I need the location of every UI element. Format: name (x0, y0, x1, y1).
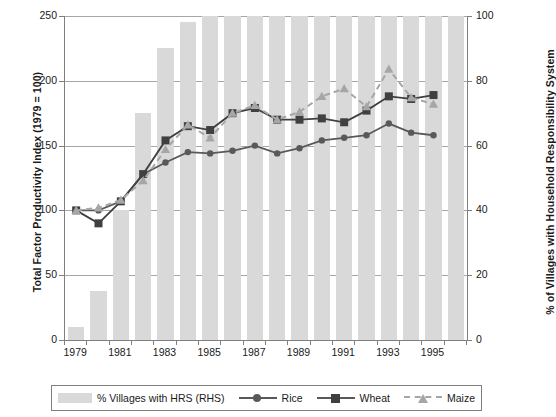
y-tick-label-right: 40 (476, 203, 536, 215)
legend-swatch-maize-icon (404, 392, 442, 404)
legend-label-maize: Maize (447, 392, 475, 404)
data-point-marker (408, 129, 414, 135)
data-point-marker (429, 100, 438, 108)
legend-item-wheat[interactable]: Wheat (317, 392, 390, 404)
y-tick-label-right: 100 (476, 9, 536, 21)
data-point-marker (162, 136, 170, 144)
x-tick-mark (466, 341, 467, 345)
x-tick-label: 1991 (320, 346, 366, 358)
data-point-marker (384, 65, 393, 73)
line-series-maize (72, 65, 439, 214)
legend-item-maize[interactable]: Maize (404, 392, 475, 404)
data-point-marker (274, 150, 280, 156)
data-point-marker (386, 120, 392, 126)
x-tick-mark (109, 341, 110, 345)
x-tick-mark (444, 341, 445, 345)
data-point-marker (318, 114, 326, 122)
chart-legend: % Villages with HRS (RHS) Rice Wheat Mai… (51, 385, 482, 411)
y-axis-right-title: % of Villages with Household Responsibil… (544, 22, 556, 342)
x-tick-label: 1983 (142, 346, 188, 358)
x-tick-label: 1985 (186, 346, 232, 358)
x-tick-mark (265, 341, 266, 345)
legend-swatch-wheat-icon (317, 392, 355, 404)
x-tick-mark (176, 341, 177, 345)
data-point-marker (340, 118, 348, 126)
x-tick-label: 1989 (276, 346, 322, 358)
data-point-marker (206, 133, 215, 141)
data-point-marker (162, 159, 168, 165)
y-tick-label-left: 150 (0, 139, 57, 151)
data-point-marker (296, 116, 304, 124)
data-point-marker (206, 126, 214, 134)
plot-area (64, 16, 468, 341)
legend-label-villages-hrs: % Villages with HRS (RHS) (97, 392, 225, 404)
legend-swatch-bar-icon (58, 393, 92, 403)
legend-item-villages-hrs[interactable]: % Villages with HRS (RHS) (58, 392, 225, 404)
y-tick-label-right: 20 (476, 268, 536, 280)
x-tick-mark (198, 341, 199, 345)
data-point-marker (341, 135, 347, 141)
data-point-marker (430, 91, 438, 99)
y-tick-label-left: 200 (0, 74, 57, 86)
data-point-marker (385, 92, 393, 100)
x-tick-mark (421, 341, 422, 345)
x-tick-mark (354, 341, 355, 345)
data-point-marker (185, 149, 191, 155)
data-point-marker (430, 132, 436, 138)
x-tick-mark (287, 341, 288, 345)
legend-swatch-rice-icon (239, 392, 277, 404)
data-point-marker (296, 145, 302, 151)
x-tick-mark (399, 341, 400, 345)
x-tick-label: 1993 (365, 346, 411, 358)
y-tick-label-right: 80 (476, 74, 536, 86)
y-tick-label-right: 60 (476, 139, 536, 151)
x-tick-label: 1995 (410, 346, 456, 358)
y-tick-label-left: 0 (0, 333, 57, 345)
x-tick-mark (153, 341, 154, 345)
data-point-marker (95, 219, 103, 227)
data-point-marker (207, 150, 213, 156)
x-tick-label: 1979 (52, 346, 98, 358)
data-point-marker (229, 148, 235, 154)
line-series-group (65, 16, 467, 340)
x-tick-mark (64, 341, 65, 345)
y-tick-label-left: 50 (0, 268, 57, 280)
legend-label-rice: Rice (282, 392, 303, 404)
y-tick-label-right: 0 (476, 333, 536, 345)
x-tick-label: 1987 (231, 346, 277, 358)
x-tick-label: 1981 (97, 346, 143, 358)
data-point-marker (363, 132, 369, 138)
data-point-marker (252, 142, 258, 148)
line-series-rice (73, 120, 437, 213)
x-tick-mark (243, 341, 244, 345)
legend-label-wheat: Wheat (360, 392, 390, 404)
x-tick-mark (131, 341, 132, 345)
y-tick-label-left: 250 (0, 9, 57, 21)
x-tick-mark (310, 341, 311, 345)
line-series-wheat (72, 91, 437, 227)
data-point-marker (340, 84, 349, 92)
y-tick-label-left: 100 (0, 203, 57, 215)
x-tick-mark (86, 341, 87, 345)
x-tick-mark (332, 341, 333, 345)
x-tick-mark (377, 341, 378, 345)
x-tick-mark (220, 341, 221, 345)
data-point-marker (319, 137, 325, 143)
legend-item-rice[interactable]: Rice (239, 392, 303, 404)
